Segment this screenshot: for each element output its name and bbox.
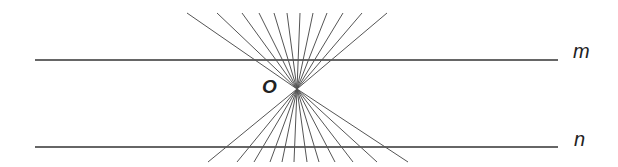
ray <box>297 89 377 162</box>
ray <box>297 89 408 162</box>
ray <box>254 89 297 162</box>
line-m-label: m <box>573 40 590 63</box>
ray <box>237 89 297 162</box>
ray <box>297 13 327 89</box>
ray <box>297 13 362 89</box>
pencil-of-lines-figure <box>0 0 618 167</box>
rays-through-o <box>187 13 408 162</box>
point-o-label: O <box>262 76 277 98</box>
ray <box>297 13 343 89</box>
line-n-label: n <box>574 128 585 151</box>
diagram-canvas: O m n <box>0 0 618 167</box>
ray <box>187 13 297 89</box>
